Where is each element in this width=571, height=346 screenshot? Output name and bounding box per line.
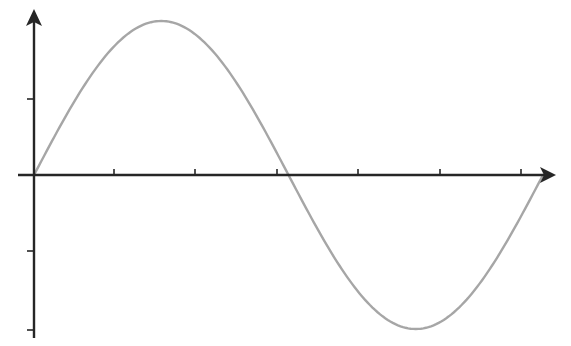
diagram-svg (0, 0, 571, 346)
sine-wave-diagram (0, 0, 571, 346)
